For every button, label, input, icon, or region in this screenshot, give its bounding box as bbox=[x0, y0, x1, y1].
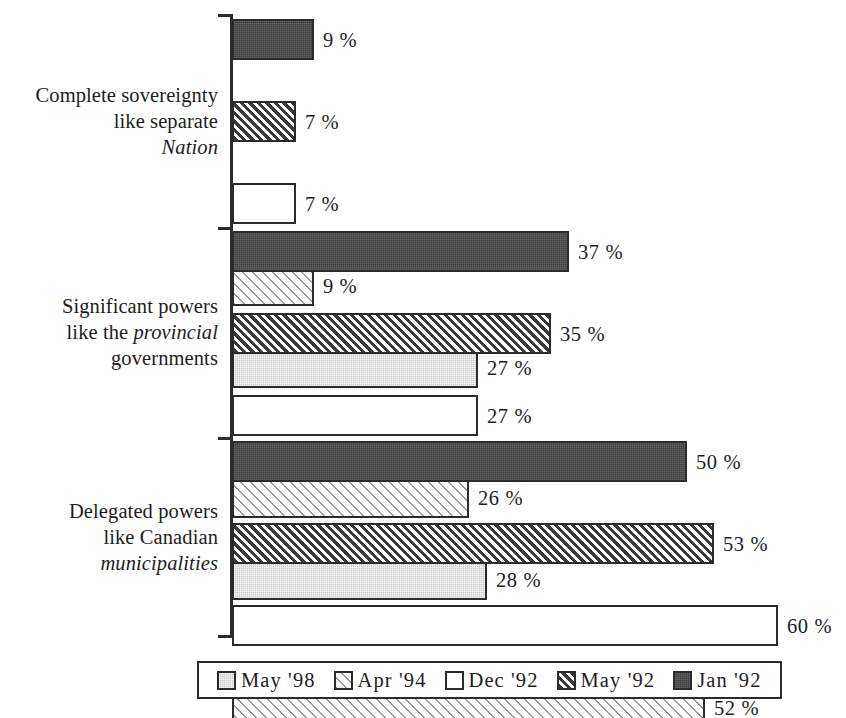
bar-may-92[interactable] bbox=[232, 523, 714, 564]
bar-jan-92[interactable] bbox=[232, 231, 569, 272]
bar-may-92[interactable] bbox=[232, 313, 551, 354]
category-label-line: Significant powers bbox=[0, 293, 218, 319]
bar-jan-92[interactable] bbox=[232, 441, 687, 482]
bar-value-label: 37 % bbox=[578, 240, 623, 263]
category-label: Complete sovereigntylike separateNation bbox=[0, 82, 218, 160]
category-label-line: Delegated powers bbox=[0, 498, 218, 524]
bar-value-label: 52 % bbox=[714, 696, 759, 718]
legend-item[interactable]: Dec '92 bbox=[445, 669, 539, 692]
category-label-line: municipalities bbox=[0, 550, 218, 576]
legend-label: May '98 bbox=[241, 669, 316, 692]
category-label-line: like separate bbox=[0, 108, 218, 134]
legend-label: Jan '92 bbox=[697, 669, 761, 692]
bar-value-label: 7 % bbox=[305, 110, 339, 133]
legend-swatch-icon bbox=[334, 671, 353, 690]
bar-value-label: 9 % bbox=[323, 28, 357, 51]
legend-label: Dec '92 bbox=[469, 669, 539, 692]
legend-item[interactable]: May '92 bbox=[557, 669, 656, 692]
bar-value-label: 27 % bbox=[487, 404, 532, 427]
legend-item-list: May '98Apr '94Dec '92May '92Jan '92 bbox=[208, 669, 771, 692]
legend-item[interactable]: May '98 bbox=[217, 669, 316, 692]
bar-value-label: 35 % bbox=[560, 322, 605, 345]
legend-swatch-icon bbox=[557, 671, 576, 690]
category-label-line: governments bbox=[0, 345, 218, 371]
legend-item[interactable]: Apr '94 bbox=[334, 669, 427, 692]
bar-value-label: 7 % bbox=[305, 192, 339, 215]
bar-group: Complete sovereigntylike separateNation9… bbox=[0, 14, 846, 227]
category-label-line: like the provincial bbox=[0, 319, 218, 345]
legend-swatch-icon bbox=[217, 671, 236, 690]
bar-may-92[interactable] bbox=[232, 101, 296, 142]
legend-swatch-icon bbox=[445, 671, 464, 690]
bar-dec-92[interactable] bbox=[232, 605, 778, 646]
category-label: Significant powerslike the provincialgov… bbox=[0, 293, 218, 371]
bar-value-label: 53 % bbox=[723, 532, 768, 555]
category-label-line: like Canadian bbox=[0, 524, 218, 550]
legend-swatch-icon bbox=[673, 671, 692, 690]
category-label: Delegated powerslike Canadianmunicipalit… bbox=[0, 498, 218, 576]
bar-group: Delegated powerslike Canadianmunicipalit… bbox=[0, 437, 846, 637]
legend-label: May '92 bbox=[581, 669, 656, 692]
bar-group: Significant powerslike the provincialgov… bbox=[0, 227, 846, 437]
plot-area: Complete sovereigntylike separateNation9… bbox=[0, 0, 846, 648]
bar-dec-92[interactable] bbox=[232, 183, 296, 224]
legend-item[interactable]: Jan '92 bbox=[673, 669, 761, 692]
bar-value-label: 60 % bbox=[787, 614, 832, 637]
bar-jan-92[interactable] bbox=[232, 19, 314, 60]
chart-legend: May '98Apr '94Dec '92May '92Jan '92 bbox=[197, 661, 782, 699]
bar-value-label: 50 % bbox=[696, 450, 741, 473]
category-label-line: Nation bbox=[0, 134, 218, 160]
legend-label: Apr '94 bbox=[358, 669, 427, 692]
bar-dec-92[interactable] bbox=[232, 395, 478, 436]
bar-chart: Complete sovereigntylike separateNation9… bbox=[0, 0, 846, 718]
category-label-line: Complete sovereignty bbox=[0, 82, 218, 108]
